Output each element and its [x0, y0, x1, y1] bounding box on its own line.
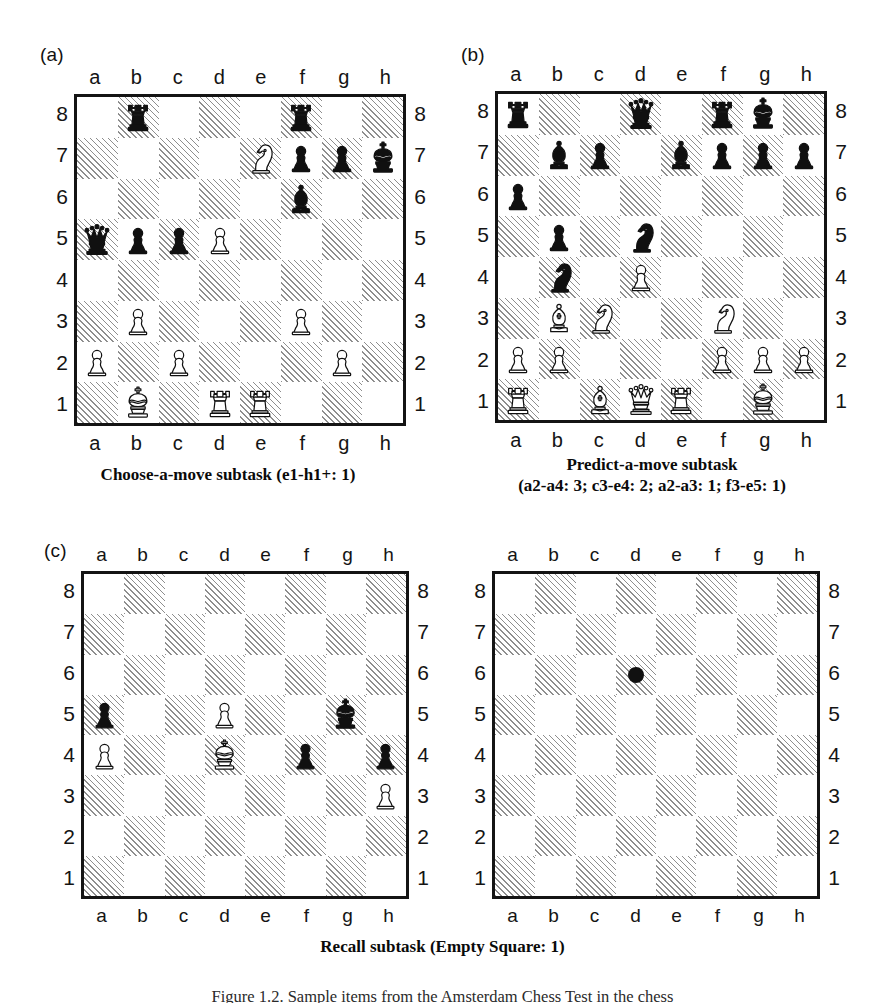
square-f1[interactable]	[281, 382, 322, 423]
square-g4[interactable]	[326, 735, 366, 775]
square-d5[interactable]	[616, 695, 656, 735]
square-e3[interactable]	[656, 775, 696, 815]
square-e3[interactable]	[240, 301, 281, 342]
square-g2[interactable]	[326, 816, 366, 856]
square-c2[interactable]	[159, 342, 200, 383]
square-f7[interactable]	[702, 135, 743, 176]
square-b6[interactable]	[118, 179, 159, 220]
square-f2[interactable]	[696, 816, 736, 856]
square-g8[interactable]	[326, 574, 366, 614]
square-e4[interactable]	[245, 735, 285, 775]
square-f1[interactable]	[285, 856, 325, 896]
square-g2[interactable]	[743, 339, 784, 380]
square-c1[interactable]	[165, 856, 205, 896]
square-c5[interactable]	[580, 216, 621, 257]
square-h7[interactable]	[362, 138, 403, 179]
square-a6[interactable]	[498, 176, 539, 217]
square-c6[interactable]	[580, 176, 621, 217]
square-e7[interactable]	[245, 614, 285, 654]
square-a8[interactable]	[77, 97, 118, 138]
square-h5[interactable]	[777, 695, 817, 735]
square-b8[interactable]	[124, 574, 164, 614]
square-g5[interactable]	[737, 695, 777, 735]
square-d6[interactable]	[205, 655, 245, 695]
square-g4[interactable]	[322, 260, 363, 301]
square-h8[interactable]	[366, 574, 406, 614]
square-h6[interactable]	[362, 179, 403, 220]
square-g7[interactable]	[326, 614, 366, 654]
square-a8[interactable]	[84, 574, 124, 614]
square-e8[interactable]	[656, 574, 696, 614]
square-b1[interactable]	[535, 856, 575, 896]
square-b3[interactable]	[118, 301, 159, 342]
square-e8[interactable]	[240, 97, 281, 138]
square-c4[interactable]	[580, 257, 621, 298]
square-b3[interactable]	[539, 298, 580, 339]
square-b1[interactable]	[539, 379, 580, 420]
square-f4[interactable]	[285, 735, 325, 775]
square-c8[interactable]	[165, 574, 205, 614]
square-d3[interactable]	[616, 775, 656, 815]
square-d4[interactable]	[616, 735, 656, 775]
square-c7[interactable]	[580, 135, 621, 176]
square-e6[interactable]	[240, 179, 281, 220]
square-f5[interactable]	[281, 219, 322, 260]
square-c8[interactable]	[159, 97, 200, 138]
square-d6[interactable]	[620, 176, 661, 217]
square-a1[interactable]	[495, 856, 535, 896]
square-d5[interactable]	[205, 695, 245, 735]
square-g3[interactable]	[322, 301, 363, 342]
square-a3[interactable]	[498, 298, 539, 339]
square-h1[interactable]	[783, 379, 824, 420]
square-d6[interactable]	[616, 655, 656, 695]
square-h2[interactable]	[783, 339, 824, 380]
square-h3[interactable]	[783, 298, 824, 339]
square-b5[interactable]	[535, 695, 575, 735]
square-g7[interactable]	[322, 138, 363, 179]
square-c2[interactable]	[576, 816, 616, 856]
square-a4[interactable]	[77, 260, 118, 301]
square-c5[interactable]	[576, 695, 616, 735]
square-f8[interactable]	[281, 97, 322, 138]
square-c3[interactable]	[576, 775, 616, 815]
square-e2[interactable]	[240, 342, 281, 383]
square-d4[interactable]	[620, 257, 661, 298]
square-b4[interactable]	[539, 257, 580, 298]
square-h3[interactable]	[777, 775, 817, 815]
square-f2[interactable]	[281, 342, 322, 383]
square-e7[interactable]	[240, 138, 281, 179]
square-b2[interactable]	[535, 816, 575, 856]
square-g3[interactable]	[737, 775, 777, 815]
square-g1[interactable]	[743, 379, 784, 420]
square-a8[interactable]	[495, 574, 535, 614]
square-d8[interactable]	[205, 574, 245, 614]
board-c-right[interactable]: aabbccddeeffgghh8877665544332211	[464, 543, 848, 927]
square-e4[interactable]	[656, 735, 696, 775]
square-h7[interactable]	[783, 135, 824, 176]
square-g3[interactable]	[326, 775, 366, 815]
square-a2[interactable]	[77, 342, 118, 383]
square-f3[interactable]	[702, 298, 743, 339]
square-f5[interactable]	[702, 216, 743, 257]
square-b2[interactable]	[118, 342, 159, 383]
square-f1[interactable]	[702, 379, 743, 420]
square-f3[interactable]	[281, 301, 322, 342]
square-h4[interactable]	[366, 735, 406, 775]
square-h4[interactable]	[783, 257, 824, 298]
square-h3[interactable]	[362, 301, 403, 342]
square-d3[interactable]	[199, 301, 240, 342]
square-e6[interactable]	[661, 176, 702, 217]
square-a7[interactable]	[77, 138, 118, 179]
square-b4[interactable]	[118, 260, 159, 301]
square-e2[interactable]	[245, 816, 285, 856]
square-d2[interactable]	[205, 816, 245, 856]
square-c1[interactable]	[159, 382, 200, 423]
square-c6[interactable]	[165, 655, 205, 695]
square-c5[interactable]	[165, 695, 205, 735]
square-c6[interactable]	[159, 179, 200, 220]
square-e8[interactable]	[661, 94, 702, 135]
square-d7[interactable]	[616, 614, 656, 654]
square-a3[interactable]	[495, 775, 535, 815]
square-a1[interactable]	[84, 856, 124, 896]
square-e7[interactable]	[656, 614, 696, 654]
